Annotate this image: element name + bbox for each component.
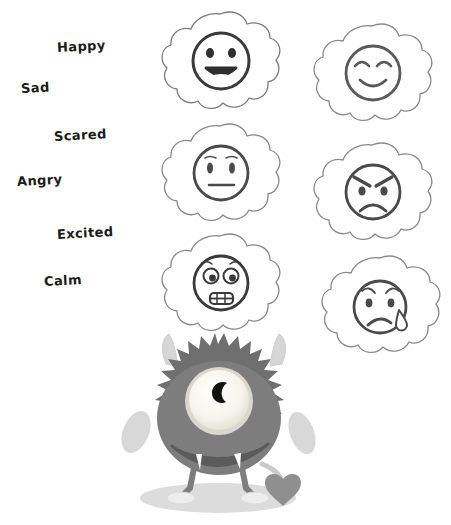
left-eye — [207, 163, 213, 174]
emotion-label-scared: Scared — [54, 126, 107, 144]
emotion-label-excited: Excited — [57, 224, 114, 242]
emotion-label-angry: Angry — [17, 172, 63, 189]
right-arm — [283, 408, 321, 458]
right-horn — [270, 334, 286, 366]
worksheet-canvas: Happy Sad Scared Angry Excited Calm — [0, 0, 451, 525]
face-circle — [346, 165, 400, 219]
left-eye — [366, 299, 373, 308]
left-eye — [206, 48, 214, 58]
right-eye — [228, 48, 236, 58]
left-pupil — [209, 275, 216, 282]
left-eye — [358, 186, 365, 195]
face-circle — [346, 46, 400, 100]
right-foot — [241, 492, 269, 504]
emotion-label-happy: Happy — [57, 37, 106, 55]
face-circle — [194, 146, 248, 200]
right-pupil — [229, 275, 236, 282]
cloud-face-angry[interactable] — [310, 139, 435, 257]
cloud-face-neutral[interactable] — [158, 120, 283, 238]
cloud-face-content-smile[interactable] — [310, 20, 435, 138]
cloud-face-happy-open-smile[interactable] — [158, 8, 283, 126]
right-eye — [380, 186, 387, 195]
left-arm — [116, 407, 157, 458]
cloud-face-crying[interactable] — [318, 252, 443, 370]
left-foot — [167, 492, 195, 504]
right-eye — [229, 163, 235, 174]
monster-character[interactable] — [110, 328, 330, 525]
face-circle — [193, 33, 249, 89]
right-eye — [388, 299, 395, 308]
emotion-label-sad: Sad — [21, 80, 50, 96]
emotion-label-calm: Calm — [44, 272, 83, 289]
